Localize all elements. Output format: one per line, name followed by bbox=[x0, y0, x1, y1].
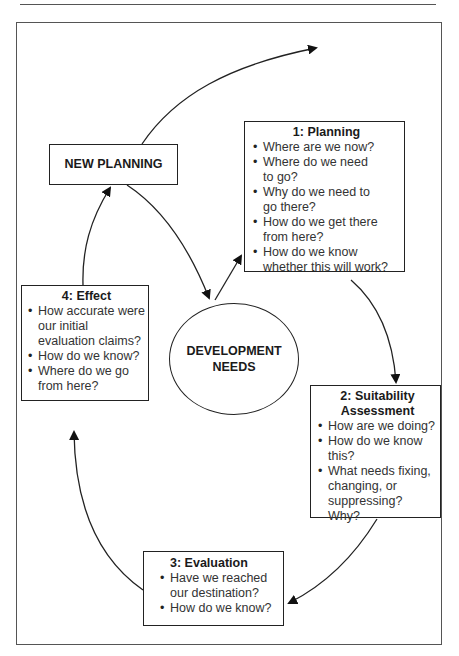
new-planning-label: NEW PLANNING bbox=[65, 157, 163, 172]
development-needs-line1: DEVELOPMENT bbox=[186, 343, 281, 359]
list-item: How do we know? bbox=[160, 601, 279, 616]
list-item: Have we reached our destination? bbox=[160, 571, 278, 601]
stage-evaluation-list: Have we reached our destination? How do … bbox=[160, 571, 279, 616]
arrow-needs-to-planning bbox=[215, 256, 241, 300]
stage-effect-list: How accurate were our initial evaluation… bbox=[28, 304, 145, 394]
stage-evaluation-title: 3: Evaluation bbox=[160, 556, 279, 571]
stage-suitability-title-line2: Assessment bbox=[318, 404, 437, 419]
list-item: Where do we go from here? bbox=[28, 364, 138, 394]
development-needs-line2: NEEDS bbox=[212, 359, 255, 375]
stage-suitability-box: 2: Suitability Assessment How are we doi… bbox=[310, 385, 441, 518]
new-planning-box: NEW PLANNING bbox=[49, 144, 178, 185]
arrow-suitability-to-evaluation bbox=[289, 519, 377, 603]
list-item: How are we doing? bbox=[318, 419, 437, 434]
list-item: How do we know this? bbox=[318, 434, 428, 464]
list-item: Where do we need to go? bbox=[253, 155, 381, 185]
list-item: What needs fixing, changing, or suppress… bbox=[318, 464, 437, 524]
list-item: Why do we need to go there? bbox=[253, 185, 385, 215]
arrow-evaluation-to-effect bbox=[74, 432, 143, 590]
stage-effect-box: 4: Effect How accurate were our initial … bbox=[21, 285, 149, 401]
list-item: Where are we now? bbox=[253, 140, 400, 155]
list-item: How accurate were our initial evaluation… bbox=[28, 304, 145, 349]
stage-planning-list: Where are we now? Where do we need to go… bbox=[253, 140, 400, 275]
arrow-effect-to-new-planning bbox=[83, 188, 110, 285]
stage-effect-title: 4: Effect bbox=[28, 289, 145, 304]
arrow-new-planning-to-needs bbox=[127, 185, 209, 298]
stage-planning-box: 1: Planning Where are we now? Where do w… bbox=[244, 121, 405, 272]
list-item: How do we know? bbox=[28, 349, 145, 364]
development-needs-ellipse: DEVELOPMENT NEEDS bbox=[169, 303, 299, 415]
list-item: How do we know whether this will work? bbox=[253, 245, 400, 275]
list-item: How do we get there from here? bbox=[253, 215, 385, 245]
stage-suitability-title-line1: 2: Suitability bbox=[318, 389, 437, 404]
stage-suitability-list: How are we doing? How do we know this? W… bbox=[318, 419, 437, 524]
arrow-planning-to-suitability bbox=[351, 280, 396, 382]
stage-evaluation-box: 3: Evaluation Have we reached our destin… bbox=[143, 551, 284, 626]
stage-planning-title: 1: Planning bbox=[253, 125, 400, 140]
